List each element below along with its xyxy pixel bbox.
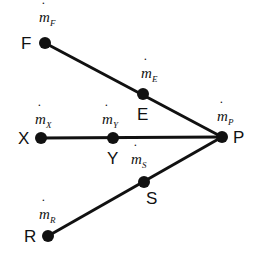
svg-text:S: S — [142, 160, 147, 170]
svg-text:R: R — [49, 215, 56, 225]
svg-text:˙: ˙ — [133, 142, 138, 157]
node-P — [216, 131, 228, 143]
node-F — [39, 37, 51, 49]
flow-label-S: m ˙ S — [131, 142, 147, 170]
edge-F-P — [45, 43, 222, 137]
label-P: P — [233, 128, 244, 147]
node-E — [137, 88, 149, 100]
svg-text:˙: ˙ — [41, 0, 46, 15]
flow-label-P: m ˙ P — [217, 99, 234, 127]
label-X: X — [18, 129, 29, 148]
node-Y — [107, 132, 119, 144]
svg-text:E: E — [151, 74, 158, 84]
svg-text:F: F — [49, 18, 56, 28]
node-S — [138, 176, 150, 188]
flow-network-diagram: F E X Y P S R m ˙ F m ˙ E m ˙ X m ˙ Y m … — [0, 0, 259, 258]
svg-text:P: P — [227, 117, 234, 127]
svg-text:˙: ˙ — [41, 197, 46, 212]
svg-text:X: X — [45, 120, 52, 130]
node-X — [35, 132, 47, 144]
flow-label-F: m ˙ F — [39, 0, 56, 28]
label-E: E — [137, 105, 148, 124]
flow-label-E: m ˙ E — [141, 56, 158, 84]
svg-text:˙: ˙ — [219, 99, 224, 114]
flow-label-X: m ˙ X — [35, 102, 52, 130]
svg-text:Y: Y — [113, 120, 119, 130]
svg-text:˙: ˙ — [37, 102, 42, 117]
node-R — [42, 230, 54, 242]
label-F: F — [21, 34, 31, 53]
svg-text:˙: ˙ — [143, 56, 148, 71]
flow-label-R: m ˙ R — [39, 197, 56, 225]
label-S: S — [146, 189, 157, 208]
edge-X-P — [41, 137, 222, 138]
flow-label-Y: m ˙ Y — [102, 102, 119, 130]
label-R: R — [24, 227, 36, 246]
label-Y: Y — [107, 149, 118, 168]
svg-text:˙: ˙ — [104, 102, 109, 117]
